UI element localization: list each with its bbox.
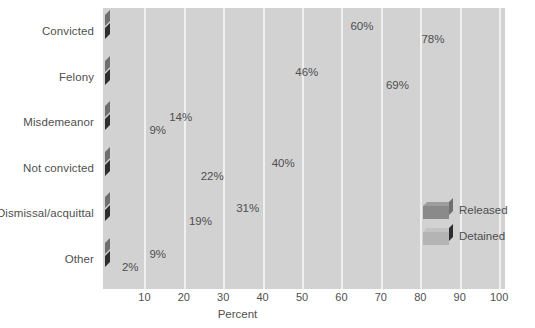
gridline-20 [184, 8, 186, 289]
bar-chart: 60%78%46%69%14%9%40%22%31%19%9%2% Convic… [0, 0, 535, 328]
bar-end-cap [105, 23, 110, 39]
bar-detained-3 [105, 170, 192, 181]
gridline-60 [341, 8, 343, 289]
x-axis-title-text: Percent [218, 308, 258, 320]
gridline-50 [302, 8, 304, 289]
bar-released-5 [105, 248, 140, 259]
x-tick-80: 80 [414, 291, 426, 303]
bar-detained-4 [105, 215, 180, 226]
bar-value-label: 69% [386, 80, 409, 92]
bar-detained-2 [105, 124, 140, 135]
x-tick-50: 50 [296, 291, 308, 303]
x-tick-90: 90 [454, 291, 466, 303]
bar-detained-1 [105, 79, 377, 90]
category-label-0: Convicted [42, 25, 94, 37]
legend-label: Released [459, 204, 508, 216]
bar-value-label: 60% [350, 21, 373, 33]
legend-swatch-icon [423, 206, 449, 219]
category-label-1: Felony [59, 71, 94, 83]
bar-value-label: 46% [295, 67, 318, 79]
legend-swatch-side [449, 198, 453, 215]
x-tick-10: 10 [138, 291, 150, 303]
bar-value-label: 2% [122, 262, 139, 274]
x-axis-title: Percent [0, 308, 535, 320]
x-tick-100: 100 [490, 291, 508, 303]
bar-value-label: 9% [149, 249, 166, 261]
bar-value-label: 9% [149, 125, 166, 137]
legend-item-released[interactable]: Released [415, 200, 525, 226]
bar-detained-0 [105, 33, 412, 44]
bar-value-label: 40% [272, 158, 295, 170]
legend-label: Detained [459, 230, 505, 242]
bar-value-label: 78% [421, 34, 444, 46]
category-label-5: Other [65, 253, 94, 265]
bar-value-label: 22% [201, 171, 224, 183]
x-tick-30: 30 [217, 291, 229, 303]
gridline-10 [144, 8, 146, 289]
x-axis-ticks: 102030405060708090100 [0, 289, 535, 309]
category-label-4: Dismissal/acquittal [0, 207, 94, 219]
x-tick-60: 60 [335, 291, 347, 303]
gridline-30 [223, 8, 225, 289]
legend-item-detained[interactable]: Detained [415, 226, 525, 252]
gridline-70 [381, 8, 383, 289]
gridline-40 [263, 8, 265, 289]
bar-end-cap [105, 114, 110, 130]
bar-released-3 [105, 157, 263, 168]
bar-end-cap [105, 205, 110, 221]
chart-legend: ReleasedDetained [415, 200, 525, 252]
bar-released-2 [105, 111, 160, 122]
bar-value-label: 19% [189, 216, 212, 228]
category-label-2: Misdemeanor [23, 116, 94, 128]
x-tick-40: 40 [257, 291, 269, 303]
bar-released-1 [105, 66, 286, 77]
legend-swatch-side [449, 224, 453, 241]
bar-detained-5 [105, 261, 113, 272]
legend-swatch-front [423, 206, 449, 219]
x-tick-70: 70 [375, 291, 387, 303]
bar-released-4 [105, 202, 227, 213]
bar-released-0 [105, 20, 341, 31]
category-label-3: Not convicted [23, 162, 94, 174]
legend-swatch-front [423, 232, 449, 245]
bar-value-label: 14% [169, 112, 192, 124]
bar-value-label: 31% [236, 203, 259, 215]
legend-swatch-icon [423, 232, 449, 245]
x-tick-20: 20 [178, 291, 190, 303]
